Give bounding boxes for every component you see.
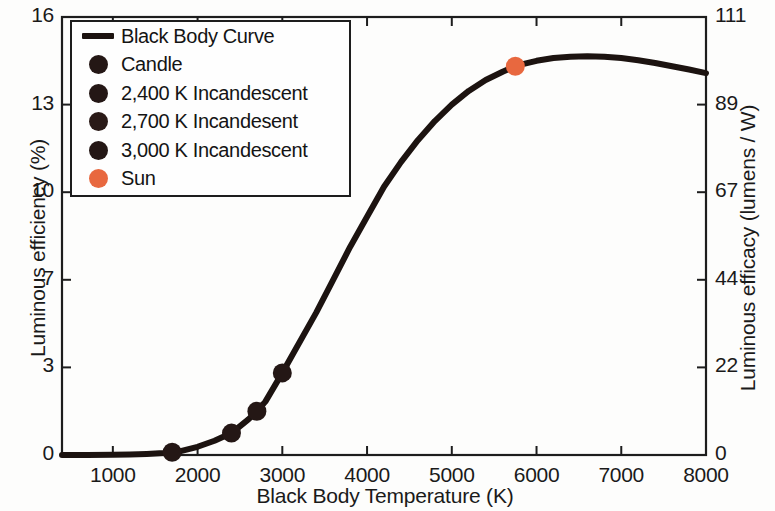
legend-dot-swatch (89, 169, 108, 188)
legend-item[interactable]: 2,400 K Incandescent (72, 79, 349, 108)
legend-item-label: Black Body Curve (121, 25, 274, 48)
data-point-3-000-k-incandescent[interactable] (273, 363, 292, 382)
black-body-efficiency-chart: Luminous efficiency (%) Luminous efficac… (0, 0, 775, 511)
y-axis-left-tick-label: 13 (0, 91, 54, 115)
legend-dot-swatch (89, 141, 108, 160)
legend-item-label: 2,400 K Incandescent (121, 82, 307, 105)
legend-marker-dot (80, 112, 116, 131)
legend-dot-swatch (89, 112, 108, 131)
data-point-2-400-k-incandescent[interactable] (222, 424, 241, 443)
legend-item-label: 3,000 K Incandescent (121, 139, 307, 162)
y-axis-left-tick-label: 16 (0, 3, 54, 27)
data-point-candle[interactable] (163, 443, 182, 462)
y-axis-right-tick-label: 44 (715, 266, 775, 290)
x-axis-tick-label: 2000 (153, 463, 243, 487)
legend-marker-line (80, 33, 116, 39)
y-axis-left-tick-label: 3 (0, 353, 54, 377)
x-axis-tick-label: 4000 (322, 463, 412, 487)
legend-item-label: 2,700 K Incandesent (121, 110, 298, 133)
legend-marker-dot (80, 84, 116, 103)
x-axis-tick-label: 3000 (237, 463, 327, 487)
y-axis-right-tick-label: 22 (715, 353, 775, 377)
x-axis-tick-label: 5000 (407, 463, 497, 487)
legend-dot-swatch (89, 55, 108, 74)
y-axis-right-tick-label: 0 (715, 441, 775, 465)
legend-marker-dot (80, 169, 116, 188)
legend-item[interactable]: Black Body Curve (72, 22, 349, 51)
y-axis-right-tick-label: 89 (715, 91, 775, 115)
x-axis-tick-label: 1000 (68, 463, 158, 487)
x-axis-tick-label: 6000 (492, 463, 582, 487)
legend-item-label: Candle (121, 53, 182, 76)
y-axis-left-tick-label: 10 (0, 178, 54, 202)
legend-marker-dot (80, 55, 116, 74)
legend-item[interactable]: 2,700 K Incandesent (72, 108, 349, 137)
legend-item[interactable]: 3,000 K Incandescent (72, 136, 349, 165)
x-axis-title: Black Body Temperature (K) (170, 484, 600, 508)
y-axis-left-tick-label: 0 (0, 441, 54, 465)
y-axis-right-tick-label: 111 (715, 3, 775, 27)
legend-item-label: Sun (121, 167, 156, 190)
legend-line-swatch (82, 33, 114, 39)
y-axis-left-tick-label: 7 (0, 266, 54, 290)
x-axis-tick-label: 8000 (661, 463, 751, 487)
x-axis-tick-label: 7000 (576, 463, 666, 487)
legend-item[interactable]: Sun (72, 165, 349, 194)
data-point-2-700-k-incandesent[interactable] (247, 402, 266, 421)
y-axis-right-tick-label: 67 (715, 178, 775, 202)
legend: Black Body CurveCandle2,400 K Incandesce… (70, 20, 351, 197)
legend-dot-swatch (89, 84, 108, 103)
data-point-sun[interactable] (506, 57, 525, 76)
legend-item[interactable]: Candle (72, 51, 349, 80)
legend-marker-dot (80, 141, 116, 160)
